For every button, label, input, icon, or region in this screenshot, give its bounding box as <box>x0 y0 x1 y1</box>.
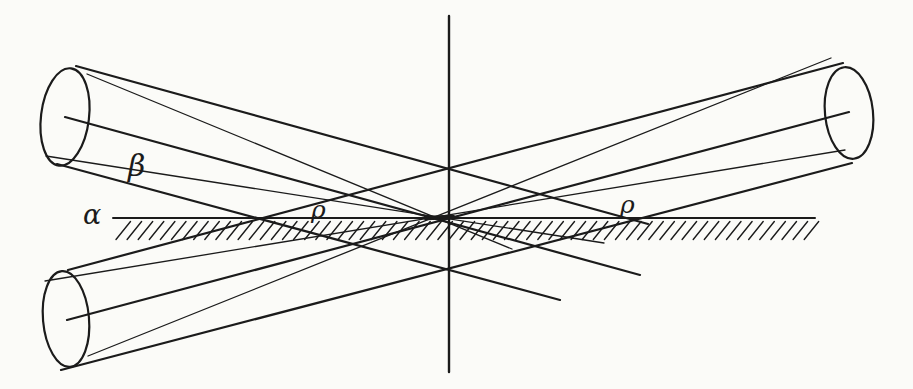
surface-hatch-mark <box>138 222 153 240</box>
surface-hatch-mark <box>505 222 520 240</box>
surface-hatch-mark <box>804 222 819 240</box>
surface-hatch-mark <box>571 222 586 240</box>
surface-hatch-mark <box>738 222 753 240</box>
surface-hatch-mark <box>771 222 786 240</box>
surface-hatch-mark <box>527 222 542 240</box>
surface-hatch-mark <box>793 222 808 240</box>
beam2-bottom-edge <box>61 163 852 370</box>
beam1-top-edge <box>76 66 648 224</box>
surface-hatch-mark <box>649 222 664 240</box>
surface-hatch-mark <box>249 222 264 240</box>
surface-hatch-mark <box>671 222 686 240</box>
label-beta-beam-angle: β <box>127 148 145 183</box>
surface-hatch-mark <box>160 222 175 240</box>
label-rho-left-grazing-angle: ρ <box>310 195 326 224</box>
beam2-axis <box>67 112 849 320</box>
surface-hatch-mark <box>660 222 675 240</box>
surface-hatch-mark <box>172 222 187 240</box>
beam-geometry <box>35 16 877 372</box>
surface-hatch-mark <box>438 222 453 240</box>
crossed-beams-diagram: α β ρ ρ <box>0 0 913 389</box>
crossed-beams-figure: α β ρ ρ <box>0 0 913 389</box>
surface-hatch-mark <box>116 222 131 240</box>
surface-hatch-mark <box>283 222 298 240</box>
label-alpha-surface: α <box>83 199 101 230</box>
surface-hatch-mark <box>327 222 342 240</box>
surface-hatch-mark <box>627 222 642 240</box>
surface-hatch-mark <box>604 222 619 240</box>
surface-hatch-mark <box>782 222 797 240</box>
label-rho-right-grazing-angle: ρ <box>619 190 635 219</box>
surface-hatch-mark <box>127 222 142 240</box>
surface-hatch-mark <box>149 222 164 240</box>
surface-hatch-mark <box>227 222 242 240</box>
surface-hatch-mark <box>538 222 553 240</box>
surface-hatch-mark <box>260 222 275 240</box>
surface-hatch-mark <box>749 222 764 240</box>
surface-hatch-mark <box>682 222 697 240</box>
surface-hatch-mark <box>194 222 209 240</box>
surface-hatch-mark <box>715 222 730 240</box>
surface-hatch-mark <box>693 222 708 240</box>
surface-hatch-mark <box>460 222 475 240</box>
surface-hatch-mark <box>727 222 742 240</box>
beam2-ray-steep <box>88 58 831 356</box>
lower-left-beam-cap <box>39 269 93 369</box>
surface-hatch-mark <box>760 222 775 240</box>
surface-hatch-mark <box>360 222 375 240</box>
surface-hatch-mark <box>704 222 719 240</box>
